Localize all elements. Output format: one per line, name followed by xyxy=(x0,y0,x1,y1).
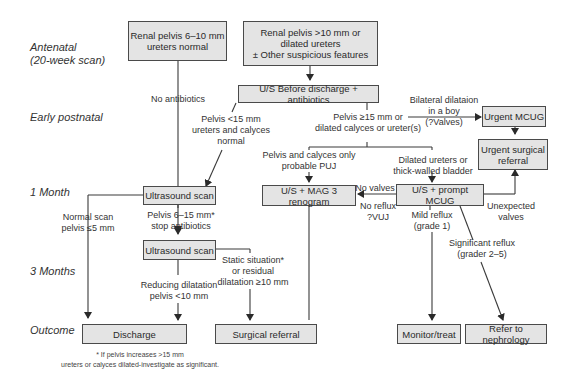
footnote: * If pelvis increases >15 mm ureters or … xyxy=(40,350,240,370)
box-discharge: Discharge xyxy=(82,324,187,344)
label-reducing-dilatation: Reducing dilatation pelvis <10 mm xyxy=(136,280,222,302)
label-unexpected-valves: Unexpected valves xyxy=(483,201,539,223)
label-no-valves: No valves xyxy=(354,183,396,194)
box-ultrasound-scan-1-month: Ultrasound scan xyxy=(143,186,216,205)
label-significant-reflux: Significant reflux (grader 2–5) xyxy=(440,238,524,260)
label-mild-reflux: Mild reflux (grade 1) xyxy=(402,210,462,232)
stage-outcome: Outcome xyxy=(30,324,75,337)
stage-early-postnatal: Early postnatal xyxy=(30,111,103,124)
stage-3-months: 3 Months xyxy=(30,265,75,278)
box-urgent-mcug: Urgent MCUG xyxy=(482,106,546,127)
box-urgent-surgical-referral: Urgent surgical referral xyxy=(478,139,548,170)
box-ultrasound-scan-3-months: Ultrasound scan xyxy=(143,240,216,260)
box-us-before-discharge: U/S Before discharge + antibiotics xyxy=(238,85,379,103)
renal-pelvis-dilatation-flowchart: Antenatal (20-week scan) Early postnatal… xyxy=(0,0,575,387)
box-renal-pelvis-gt-10mm: Renal pelvis >10 mm or dilated ureters ±… xyxy=(243,21,378,66)
label-pelvis-6-15mm: Pelvis 6–15 mm* stop antibiotics xyxy=(143,210,219,232)
box-us-mag3-renogram: U/S + MAG 3 renogram xyxy=(262,185,356,206)
stage-antenatal: Antenatal (20-week scan) xyxy=(30,41,105,67)
box-refer-to-nephrology: Refer to nephrology xyxy=(465,324,547,344)
box-monitor-treat: Monitor/treat xyxy=(397,324,461,344)
label-bilateral-dilatation: Bilateral dilataion in a boy (?Valves) xyxy=(409,95,479,128)
label-no-antibiotics: No antibiotics xyxy=(148,94,208,105)
label-no-reflux: No reflux ?VUJ xyxy=(358,201,398,223)
box-us-prompt-mcug: U/S + prompt MCUG xyxy=(396,184,484,206)
label-static-situation: Static situation* or residual dilatation… xyxy=(214,255,292,288)
box-renal-pelvis-6-10mm: Renal pelvis 6–10 mm ureters normal xyxy=(128,21,227,61)
label-dilated-ureters: Dilated ureters or thick-walled bladder xyxy=(390,155,476,177)
label-normal-scan: Normal scan pelvis ≤5 mm xyxy=(58,212,118,234)
label-pelvis-calyces-only: Pelvis and calyces only probable PUJ xyxy=(256,150,362,172)
label-pelvis-lt-15mm: Pelvis <15 mm ureters and calyces normal xyxy=(186,114,276,147)
box-surgical-referral: Surgical referral xyxy=(215,324,317,344)
stage-1-month: 1 Month xyxy=(30,186,70,199)
